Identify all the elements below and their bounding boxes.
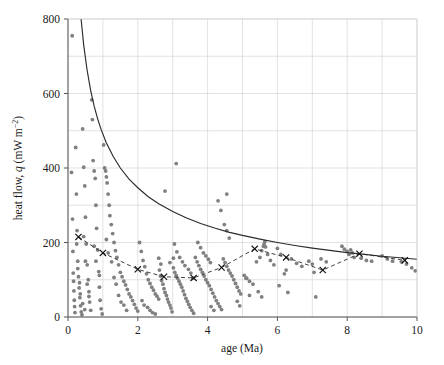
data-point [286,291,290,295]
data-point [98,285,102,289]
data-point [85,263,89,267]
y-axis-label-units: (mW m [12,128,25,166]
data-point [200,270,204,274]
data-point [300,264,304,268]
data-point [89,308,93,312]
data-point [83,184,87,188]
y-axis-label: heat flow, q (mW m−2) [11,116,25,221]
data-point [129,295,133,299]
data-point [227,236,231,240]
data-point [235,299,239,303]
data-point [71,271,75,275]
data-point [102,143,106,147]
data-point [95,226,99,230]
data-point [146,305,150,309]
data-point [83,308,87,312]
heat-flow-scatter-figure: 0246810 0200400600800 age (Ma) heat flow… [0,0,444,365]
data-point [307,259,311,263]
x-tick-label: 4 [205,324,211,336]
data-point [73,311,77,315]
x-axis-label: age (Ma) [221,342,263,355]
data-point [93,177,97,181]
x-tick-label: 6 [275,324,281,336]
data-point [124,283,128,287]
data-point [370,259,374,263]
data-point [105,181,109,185]
data-point [284,268,288,272]
data-point [202,251,206,255]
data-point [276,247,280,251]
data-point [314,295,318,299]
data-point [244,276,248,280]
data-point [143,265,147,269]
data-point [82,235,86,239]
x-tick-label: 10 [411,324,423,336]
data-point [162,287,166,291]
data-point [208,261,212,265]
data-point [312,270,316,274]
y-axis-label-close: ) [12,116,25,120]
data-point [221,257,225,261]
data-point [117,263,121,267]
data-point [365,258,369,262]
data-point [78,292,82,296]
data-point [100,312,104,316]
data-point [158,268,162,272]
y-axis-label-exponent: −2 [11,120,20,129]
data-point [77,286,81,290]
data-point [114,249,118,253]
data-point [118,270,122,274]
y-tick-label: 400 [43,162,61,174]
data-point [94,259,98,263]
data-point [88,300,92,304]
data-point [112,276,116,280]
data-point [72,298,76,302]
data-point [70,34,74,38]
data-point [99,307,103,311]
data-point [78,296,82,300]
data-point [207,284,211,288]
data-point [173,242,177,246]
data-point [340,244,344,248]
data-point [209,305,213,309]
data-point [106,251,110,255]
data-point [324,260,328,264]
data-point [104,169,108,173]
data-point [78,281,82,285]
data-point [157,297,161,301]
data-point [170,310,174,314]
data-point [223,261,227,265]
data-point [234,282,238,286]
data-point [76,267,80,271]
data-point [72,279,76,283]
y-axis-label-prefix: heat flow, [12,172,25,220]
data-point [225,192,229,196]
data-point [104,175,108,179]
x-tick-label: 2 [135,324,141,336]
data-point [125,308,129,312]
data-point [159,262,163,266]
data-point [117,293,121,297]
data-point [98,298,102,302]
data-point [74,146,78,150]
data-point [289,257,293,261]
data-point [122,303,126,307]
data-point [222,223,226,227]
data-point [157,256,161,260]
data-point [138,241,142,245]
data-point [112,241,116,245]
data-point [153,312,157,316]
data-point [139,250,143,254]
data-point [132,302,136,306]
data-point [391,259,395,263]
data-point [238,304,242,308]
data-point [131,299,135,303]
data-point [211,291,215,295]
data-point [248,279,252,283]
x-tick-label: 8 [344,324,350,336]
data-point [152,288,156,292]
data-point [260,295,264,299]
data-point [163,189,167,193]
data-point [84,215,88,219]
data-point [104,238,108,242]
